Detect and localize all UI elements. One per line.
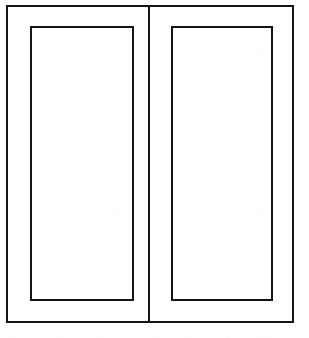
door-elevation-figure [0, 0, 309, 338]
right-door-panel [172, 27, 272, 300]
door-elevation-drawing [0, 0, 309, 338]
left-door-panel [31, 27, 133, 300]
